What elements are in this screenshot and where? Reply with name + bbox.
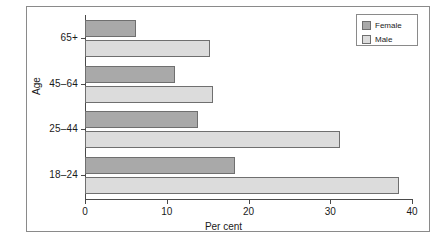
legend-swatch-male-icon: [362, 35, 371, 44]
x-axis-tick: [85, 199, 86, 204]
legend-item-female[interactable]: Female: [362, 19, 417, 31]
x-axis-tick: [330, 199, 331, 204]
legend-swatch-female-icon: [362, 21, 371, 30]
y-axis-tick: [81, 129, 85, 130]
bar-male-65+: [85, 40, 210, 57]
y-axis-tick-label: 65+: [0, 33, 78, 43]
x-axis-tick: [167, 199, 168, 204]
legend-label-male: Male: [375, 35, 392, 44]
legend-item-male[interactable]: Male: [362, 33, 417, 45]
bar-female-45_64: [85, 66, 175, 83]
x-axis-tick-label: 0: [70, 206, 100, 217]
figure: Age Per cent Female Male 01020304065+45–…: [0, 0, 447, 250]
y-axis-tick-label: 18–24: [0, 170, 78, 180]
x-axis-tick-label: 40: [397, 206, 427, 217]
bar-male-25_44: [85, 131, 340, 148]
y-axis-tick: [81, 84, 85, 85]
x-axis-label: Per cent: [0, 221, 447, 232]
x-axis-tick-label: 10: [152, 206, 182, 217]
x-axis-tick: [249, 199, 250, 204]
bar-female-65+: [85, 20, 136, 37]
bar-male-45_64: [85, 86, 213, 103]
bar-female-25_44: [85, 111, 198, 128]
y-axis-tick-label: 45–64: [0, 79, 78, 89]
y-axis-tick: [81, 175, 85, 176]
x-axis-tick: [412, 199, 413, 204]
legend: Female Male: [356, 14, 418, 46]
x-axis-tick-label: 20: [234, 206, 264, 217]
legend-label-female: Female: [375, 21, 402, 30]
bar-male-18_24: [85, 177, 399, 194]
y-axis-tick: [81, 38, 85, 39]
y-axis-tick-label: 25–44: [0, 124, 78, 134]
bar-female-18_24: [85, 157, 235, 174]
x-axis-tick-label: 30: [315, 206, 345, 217]
